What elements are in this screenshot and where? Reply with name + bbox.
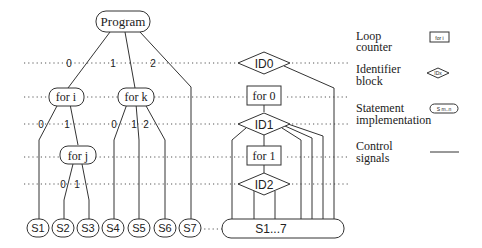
- id1-label: ID1: [255, 118, 274, 132]
- for-1-counter: for 1: [247, 146, 281, 165]
- loop-hierarchy-diagram: Program 0 1 2 for i for k 0 1 0 1 2 for …: [0, 0, 482, 248]
- id2-block: ID2: [238, 173, 290, 195]
- edge-label: 2: [143, 119, 149, 130]
- for-i-node: for i: [49, 88, 84, 106]
- statement-s1: S1: [31, 222, 44, 234]
- legend: Loop counter for i Identifier block IDx …: [356, 29, 459, 165]
- for-j-label: for j: [68, 149, 88, 163]
- legend-label: block: [356, 74, 383, 88]
- edge-label: 0: [111, 119, 117, 130]
- for-k-node: for k: [118, 88, 154, 106]
- legend-symbol-text: for i: [435, 35, 443, 41]
- for-k-label: for k: [125, 90, 148, 104]
- edge-label: 1: [64, 119, 70, 130]
- edge-label: 1: [131, 119, 137, 130]
- merged-statement-label: S1...7: [255, 222, 287, 236]
- control-structure: ID0 for 0 ID1 for 1 ID2 S1...7: [222, 52, 344, 238]
- legend-symbol-text: S m..n: [437, 106, 452, 112]
- edge-label: 1: [74, 179, 80, 190]
- legend-label: implementation: [356, 113, 431, 127]
- edge-label: 0: [38, 119, 44, 130]
- edge-label: 1: [110, 58, 116, 69]
- program-tree: Program 0 1 2 for i for k 0 1 0 1 2 for …: [27, 11, 201, 237]
- for-0-label: for 0: [253, 89, 276, 103]
- legend-symbol-text: IDx: [434, 70, 442, 76]
- legend-item-statement-implementation: Statement implementation S m..n: [356, 101, 458, 127]
- id0-block: ID0: [238, 52, 290, 74]
- statement-s3: S3: [81, 222, 94, 234]
- merged-statement: S1...7: [222, 219, 344, 238]
- program-node: Program: [96, 11, 150, 32]
- statement-s4: S4: [106, 222, 119, 234]
- legend-item-loop-counter: Loop counter for i: [356, 29, 449, 54]
- id0-label: ID0: [255, 57, 274, 71]
- id2-label: ID2: [255, 178, 274, 192]
- for-i-label: for i: [56, 90, 77, 104]
- edge-label: 0: [66, 58, 72, 69]
- for-1-label: for 1: [253, 149, 276, 163]
- statement-s5: S5: [132, 222, 145, 234]
- statement-s6: S6: [158, 222, 171, 234]
- statement-s2: S2: [56, 222, 69, 234]
- edge-label: 0: [60, 179, 66, 190]
- legend-label: counter: [356, 40, 392, 54]
- statement-row: S1 S2 S3 S4 S5 S6 S7: [27, 219, 201, 237]
- for-j-node: for j: [60, 146, 96, 164]
- edge-label: 2: [150, 58, 156, 69]
- statement-s7: S7: [183, 222, 196, 234]
- legend-label: signals: [356, 151, 390, 165]
- legend-item-control-signals: Control signals: [356, 139, 459, 165]
- id1-block: ID1: [238, 113, 290, 135]
- legend-item-identifier-block: Identifier block IDx: [356, 62, 449, 88]
- for-0-counter: for 0: [247, 86, 281, 105]
- program-label: Program: [101, 14, 146, 29]
